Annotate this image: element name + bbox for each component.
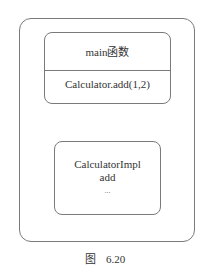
- main-function-title: main函数: [45, 43, 170, 59]
- main-function-box: main函数 Calculator.add(1,2): [44, 32, 171, 104]
- impl-method-name: add: [55, 171, 160, 184]
- caption-number: 6.20: [106, 253, 125, 265]
- calculator-add-call: Calculator.add(1,2): [45, 78, 170, 90]
- figure-caption: 图6.20: [0, 250, 210, 266]
- calculator-impl-box: CalculatorImpl add ...: [54, 141, 161, 215]
- impl-ellipsis: ...: [55, 184, 160, 197]
- divider: [45, 70, 170, 71]
- caption-label: 图: [85, 253, 96, 265]
- impl-class-name: CalculatorImpl: [55, 158, 160, 171]
- impl-content: CalculatorImpl add ...: [55, 158, 160, 197]
